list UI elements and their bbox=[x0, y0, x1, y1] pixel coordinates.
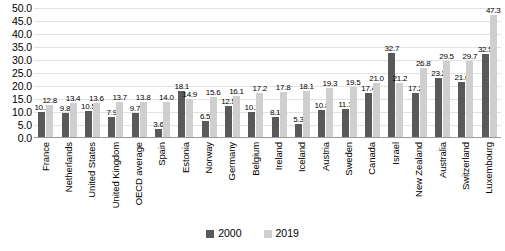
bar-value-label: 26.8 bbox=[416, 59, 431, 68]
bar: 5.3 bbox=[295, 124, 302, 138]
bar-value-label: 13.8 bbox=[136, 93, 151, 102]
bar: 17.4 bbox=[365, 93, 372, 138]
bar-group: 17.421.0 bbox=[361, 8, 384, 138]
bar: 12.8 bbox=[46, 105, 53, 138]
bar-group: 10.112.8 bbox=[34, 8, 57, 138]
bar-group: 32.547.3 bbox=[478, 8, 501, 138]
legend-item[interactable]: 2000 bbox=[206, 228, 241, 239]
bar: 21.2 bbox=[396, 83, 403, 138]
bar-group: 21.629.7 bbox=[454, 8, 477, 138]
bar-group: 18.114.9 bbox=[174, 8, 197, 138]
x-axis-category-label: France bbox=[34, 140, 57, 222]
bar: 26.8 bbox=[420, 68, 427, 138]
bar-groups: 10.112.89.813.410.513.67.913.79.713.83.6… bbox=[34, 8, 501, 138]
bar: 6.5 bbox=[202, 121, 209, 138]
x-axis-category-label: Netherlands bbox=[57, 140, 80, 222]
bar: 21.0 bbox=[373, 83, 380, 138]
category-label-text: Belgium bbox=[251, 142, 261, 176]
x-axis-category-label: Austria bbox=[314, 140, 337, 222]
category-label-text: France bbox=[41, 142, 51, 171]
bar: 14.0 bbox=[163, 102, 170, 138]
bar: 16.1 bbox=[233, 96, 240, 138]
legend-item[interactable]: 2019 bbox=[264, 228, 299, 239]
bar: 17.8 bbox=[280, 92, 287, 138]
bar: 9.7 bbox=[132, 113, 139, 138]
bar-value-label: 17.2 bbox=[252, 84, 267, 93]
y-axis-tick-label: 45.0 bbox=[12, 16, 32, 27]
x-axis-category-label: Israel bbox=[384, 140, 407, 222]
y-axis-tick-label: 35.0 bbox=[12, 42, 32, 53]
bar: 11.1 bbox=[342, 109, 349, 138]
category-label-text: New Zealand bbox=[414, 142, 424, 197]
bar: 7.9 bbox=[108, 117, 115, 138]
bar: 8.1 bbox=[272, 117, 279, 138]
bar-group: 32.721.2 bbox=[384, 8, 407, 138]
bar: 32.7 bbox=[388, 53, 395, 138]
bar-value-label: 19.3 bbox=[323, 79, 338, 88]
category-label-text: Switzerland bbox=[461, 142, 471, 190]
bar: 10.5 bbox=[85, 111, 92, 138]
bar-value-label: 29.7 bbox=[463, 52, 478, 61]
category-label-text: Israel bbox=[391, 142, 401, 165]
y-axis-tick-label: 0.0 bbox=[18, 133, 32, 144]
bar-value-label: 14.0 bbox=[159, 93, 174, 102]
bar-group: 9.713.8 bbox=[127, 8, 150, 138]
category-label-text: Netherlands bbox=[64, 142, 74, 192]
bar: 9.8 bbox=[62, 113, 69, 138]
category-label-text: Spain bbox=[157, 142, 167, 166]
bar: 32.5 bbox=[482, 54, 489, 139]
category-label-text: Canada bbox=[367, 142, 377, 175]
x-axis-category-label: Luxembourg bbox=[478, 140, 501, 222]
bar-group: 12.516.1 bbox=[221, 8, 244, 138]
bar: 47.3 bbox=[490, 15, 497, 138]
bar: 19.3 bbox=[326, 88, 333, 138]
bar-group: 11.119.5 bbox=[337, 8, 360, 138]
bar-group: 5.318.1 bbox=[291, 8, 314, 138]
x-axis-category-label: Switzerland bbox=[454, 140, 477, 222]
x-axis-category-label: United States bbox=[81, 140, 104, 222]
x-axis-category-label: Germany bbox=[221, 140, 244, 222]
bar: 13.4 bbox=[70, 103, 77, 138]
bar-value-label: 29.5 bbox=[439, 52, 454, 61]
bar: 21.6 bbox=[458, 82, 465, 138]
bar-group: 9.813.4 bbox=[57, 8, 80, 138]
bar-group: 7.913.7 bbox=[104, 8, 127, 138]
category-label-text: United Kingdom bbox=[111, 142, 121, 208]
bar: 12.5 bbox=[225, 106, 232, 139]
y-axis-tick-label: 30.0 bbox=[12, 55, 32, 66]
category-label-text: Ireland bbox=[274, 142, 284, 170]
y-axis-tick-label: 20.0 bbox=[12, 81, 32, 92]
bar: 13.8 bbox=[140, 102, 147, 138]
category-label-text: Austria bbox=[321, 142, 331, 171]
x-axis-category-label: Iceland bbox=[291, 140, 314, 222]
category-label-text: Estonia bbox=[181, 142, 191, 173]
x-axis-category-label: Canada bbox=[361, 140, 384, 222]
bar: 13.7 bbox=[116, 102, 123, 138]
bar-value-label: 21.2 bbox=[393, 74, 408, 83]
bar-group: 10.819.3 bbox=[314, 8, 337, 138]
bar-value-label: 21.0 bbox=[369, 74, 384, 83]
x-axis-category-label: Estonia bbox=[174, 140, 197, 222]
bar: 17.2 bbox=[412, 93, 419, 138]
bar-group: 23.229.5 bbox=[431, 8, 454, 138]
bar: 10.1 bbox=[38, 112, 45, 138]
x-axis-category-label: Spain bbox=[151, 140, 174, 222]
y-axis-tick-label: 40.0 bbox=[12, 29, 32, 40]
x-axis-category-label: Norway bbox=[197, 140, 220, 222]
y-axis: 0.05.010.015.020.025.030.035.040.045.050… bbox=[0, 0, 34, 145]
bar: 23.2 bbox=[435, 78, 442, 138]
bar-group: 3.614.0 bbox=[151, 8, 174, 138]
bar-group: 10.513.6 bbox=[81, 8, 104, 138]
x-axis-line bbox=[34, 137, 501, 138]
plot-area: 10.112.89.813.410.513.67.913.79.713.83.6… bbox=[34, 8, 501, 138]
x-axis-category-label: New Zealand bbox=[408, 140, 431, 222]
bar-group: 10.117.2 bbox=[244, 8, 267, 138]
legend-label: 2019 bbox=[276, 228, 299, 239]
bar: 29.5 bbox=[443, 61, 450, 138]
x-axis-category-label: Australia bbox=[431, 140, 454, 222]
bar-value-label: 16.1 bbox=[229, 87, 244, 96]
category-label-text: Luxembourg bbox=[484, 142, 494, 194]
x-axis-category-label: Sweden bbox=[337, 140, 360, 222]
bar-value-label: 14.9 bbox=[182, 90, 197, 99]
bar-value-label: 32.7 bbox=[385, 44, 400, 53]
